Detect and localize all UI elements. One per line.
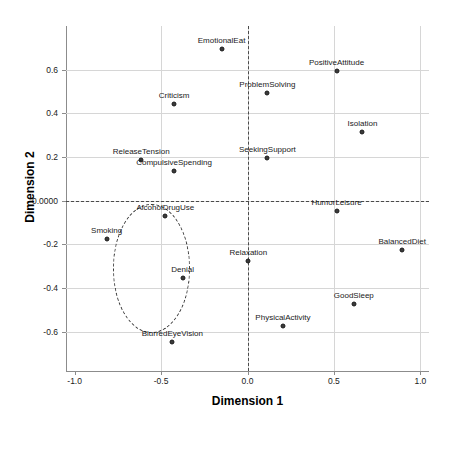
data-point-label: Isolation [348, 119, 378, 128]
y-tick-mark [62, 201, 66, 202]
x-tick-label: -1.0 [67, 376, 82, 386]
data-point-label: Smoking [91, 226, 122, 235]
x-tick-label: -0.5 [154, 376, 169, 386]
data-point[interactable] [351, 302, 356, 307]
y-tick-mark [62, 288, 66, 289]
data-point-label: Criticism [159, 91, 190, 100]
data-point[interactable] [360, 129, 365, 134]
data-point[interactable] [219, 46, 224, 51]
x-tick-mark [161, 371, 162, 375]
y-tick-mark [62, 244, 66, 245]
data-point-label: ReleaseTension [113, 147, 170, 156]
data-point[interactable] [334, 68, 339, 73]
data-point-label: Denial [171, 265, 194, 274]
data-point-label: BalancedDiet [378, 237, 426, 246]
data-point[interactable] [400, 247, 405, 252]
data-point-label: ProblemSolving [239, 80, 295, 89]
scatter-plot: -1.0-0.50.00.51.00.60.40.20.0000-0.2-0.4… [0, 0, 449, 449]
y-tick-mark [62, 332, 66, 333]
data-point-label: CompulsiveSpending [136, 158, 212, 167]
data-point-label: PositiveAttitude [309, 58, 364, 67]
y-tick-label: -0.6 [43, 327, 58, 337]
x-tick-label: 1.0 [414, 376, 426, 386]
data-point[interactable] [172, 169, 177, 174]
data-point[interactable] [334, 208, 339, 213]
reference-line-vertical [248, 26, 249, 371]
data-point-label: GoodSleep [334, 291, 374, 300]
data-point-label: SeekingSupport [239, 145, 296, 154]
x-tick-label: 0.0 [242, 376, 254, 386]
gridline-vertical [420, 26, 421, 371]
data-point[interactable] [265, 156, 270, 161]
y-tick-label: -0.4 [43, 283, 58, 293]
x-axis-title: Dimension 1 [66, 394, 429, 408]
y-tick-mark [62, 157, 66, 158]
x-tick-mark [420, 371, 421, 375]
x-tick-label: 0.5 [328, 376, 340, 386]
x-tick-mark [248, 371, 249, 375]
data-point[interactable] [170, 339, 175, 344]
y-tick-mark [62, 113, 66, 114]
data-point-label: HumorLeisure [311, 198, 361, 207]
data-point[interactable] [246, 258, 251, 263]
reference-line-horizontal [66, 201, 429, 202]
data-point[interactable] [180, 276, 185, 281]
plot-area: -1.0-0.50.00.51.00.60.40.20.0000-0.2-0.4… [66, 26, 429, 371]
y-tick-mark [62, 70, 66, 71]
y-tick-label: 0.2 [46, 152, 58, 162]
data-point[interactable] [163, 213, 168, 218]
data-point-label: BlurredEyeVision [142, 329, 203, 338]
data-point-label: Relaxation [229, 248, 267, 257]
data-point[interactable] [280, 324, 285, 329]
x-tick-mark [75, 371, 76, 375]
data-point[interactable] [104, 236, 109, 241]
y-tick-label: 0.4 [46, 108, 58, 118]
x-tick-mark [334, 371, 335, 375]
y-axis-line [66, 26, 67, 371]
data-point-label: EmotionalEat [198, 36, 246, 45]
y-axis-title: Dimension 2 [23, 87, 37, 287]
data-point[interactable] [172, 101, 177, 106]
y-tick-label: -0.2 [43, 239, 58, 249]
data-point-label: PhysicalActivity [255, 313, 310, 322]
data-point-label: AlcoholDrugUse [136, 203, 194, 212]
data-point[interactable] [265, 90, 270, 95]
y-tick-label: 0.6 [46, 65, 58, 75]
